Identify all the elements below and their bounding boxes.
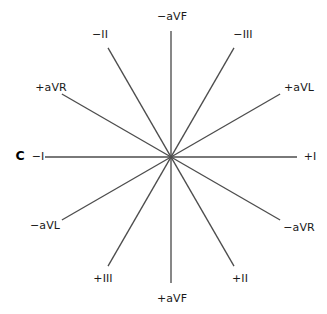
- lead-label-lead-aVR-positive: +aVR: [35, 82, 67, 94]
- lead-label-lead-aVR-negative: −aVR: [283, 222, 315, 234]
- panel-letter-label: C: [15, 148, 24, 163]
- lead-label-lead-II-positive: +II: [232, 273, 248, 285]
- lead-label-lead-aVF-positive: +aVF: [157, 293, 187, 305]
- lead-label-lead-III-positive: +III: [93, 273, 112, 285]
- lead-label-lead-II-negative: −II: [92, 29, 108, 41]
- hexaxial-reference-figure: C +I−I+aVL−aVL+III−III+aVF−aVF+II−II+aVR…: [0, 0, 327, 314]
- lead-label-lead-III-negative: −III: [233, 29, 252, 41]
- lead-label-lead-I-positive: +I: [304, 151, 317, 163]
- lead-label-lead-I-negative: −I: [32, 151, 45, 163]
- lead-label-lead-aVL-positive: +aVL: [284, 82, 314, 94]
- lead-label-lead-aVL-negative: −aVL: [30, 220, 60, 232]
- axes-diagram: [0, 0, 327, 314]
- lead-label-lead-aVF-negative: −aVF: [157, 11, 187, 23]
- axis-line-group: [45, 31, 297, 283]
